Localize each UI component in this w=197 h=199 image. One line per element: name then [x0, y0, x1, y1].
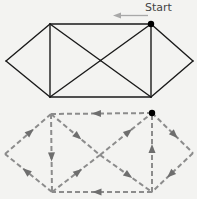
graph-edge — [6, 24, 50, 61]
direction-arrow-icon — [72, 131, 81, 139]
direction-arrow-icon — [48, 152, 55, 161]
graph-edge — [50, 24, 101, 61]
graph-edge — [6, 61, 50, 97]
graph-edge — [101, 24, 152, 61]
start-vertex — [148, 21, 154, 27]
graph-figure — [6, 21, 193, 97]
graph-edge — [101, 61, 152, 98]
direction-arrow-icon — [149, 144, 156, 153]
direction-arrow-icon — [123, 170, 132, 178]
start-vertex — [149, 110, 155, 116]
euler-path-diagram: Start — [0, 0, 197, 199]
graph-edge — [151, 24, 193, 61]
graph-edge — [151, 61, 193, 97]
start-direction-arrow — [113, 13, 148, 19]
direction-arrow-icon — [93, 189, 102, 196]
graph-edge — [50, 61, 101, 98]
start-label: Start — [145, 1, 173, 14]
path-edge — [51, 113, 152, 114]
euler-path-figure — [5, 110, 193, 196]
direction-arrow-icon — [123, 129, 132, 137]
direction-arrow-icon — [92, 110, 101, 117]
